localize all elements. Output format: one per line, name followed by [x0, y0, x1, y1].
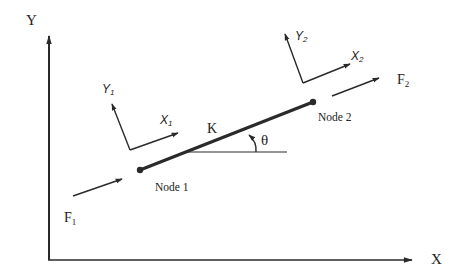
angle-label: θ: [261, 132, 268, 148]
global-x-label: X: [431, 251, 442, 267]
angle-arc-icon: [249, 135, 256, 152]
element: K θ Node 1 Node 2: [137, 99, 352, 193]
local-y2-label: Y2: [295, 29, 308, 44]
force-f2-arrow: [332, 78, 379, 96]
global-axes: Y X: [26, 12, 442, 267]
node-2-point: [310, 99, 316, 105]
local-y1-label: Y1: [102, 82, 114, 97]
local-x1-axis: [130, 133, 178, 150]
local-frame-1: Y1 X1: [102, 82, 178, 150]
spring-element-diagram: Y X K θ Node 1 Node 2 Y1 X1 Y2 X2: [0, 0, 463, 274]
force-f1-arrow: [73, 179, 122, 196]
force-f2-label: F2: [397, 72, 409, 89]
local-x2-axis: [303, 64, 350, 83]
global-y-label: Y: [26, 12, 37, 28]
local-frame-2: Y2 X2: [285, 29, 364, 83]
local-y1-axis: [112, 104, 130, 150]
force-f1-label: F1: [64, 210, 76, 227]
local-x1-label: X1: [159, 113, 172, 128]
local-x2-label: X2: [350, 49, 364, 64]
stiffness-label: K: [207, 121, 217, 136]
node-1-label: Node 1: [155, 181, 189, 193]
node-1-point: [137, 167, 143, 173]
node-2-label: Node 2: [318, 111, 352, 123]
forces: F1 F2: [64, 72, 409, 227]
